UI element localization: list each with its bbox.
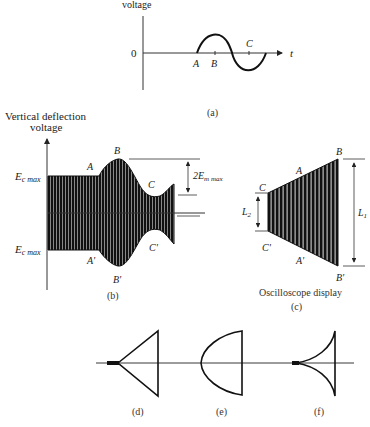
caption-e: (e) xyxy=(216,406,227,418)
l1-label: L1 xyxy=(357,207,367,220)
point-b-prime-display: B' xyxy=(336,272,345,283)
point-a-upper: A xyxy=(86,161,94,172)
point-c-lower: C' xyxy=(149,242,159,253)
panel-a-y-label: voltage xyxy=(122,0,152,10)
ec-max-bottom-label: Ec max xyxy=(14,243,41,257)
sine-wave xyxy=(197,35,266,71)
point-c-prime-display: C' xyxy=(262,242,272,253)
triangle-pattern xyxy=(118,331,158,396)
point-a: A xyxy=(192,58,200,69)
point-c-upper: C xyxy=(148,179,155,190)
zero-label: 0 xyxy=(131,47,137,59)
caption-b: (b) xyxy=(107,290,119,302)
ec-max-top-label: Ec max xyxy=(14,170,41,184)
caption-f: (f) xyxy=(314,406,324,418)
caption-a: (a) xyxy=(207,107,218,119)
panel-d: (d) xyxy=(107,331,158,418)
caption-d: (d) xyxy=(132,406,144,418)
point-a-prime-display: A' xyxy=(295,255,305,266)
panel-c: L2 L1 C A B C' A' B' Oscilloscope displa… xyxy=(241,146,367,313)
point-b-lower: B' xyxy=(113,274,122,285)
concave-pattern xyxy=(296,331,335,396)
panel-f: (f) xyxy=(292,331,335,418)
modulation-diagram: voltage 0 t A B C (a) Vertical deflectio… xyxy=(0,0,370,427)
panel-b-y-label-2: voltage xyxy=(30,121,62,133)
caption-c: (c) xyxy=(291,301,302,313)
point-a-display: A xyxy=(295,165,303,176)
oscilloscope-display-title: Oscilloscope display xyxy=(259,287,342,298)
point-c-display: C xyxy=(259,182,266,193)
trapezoid-display xyxy=(268,159,338,266)
panels-def: (d) (e) (f) xyxy=(96,331,354,418)
panel-e: (e) xyxy=(201,331,242,418)
l2-label: L2 xyxy=(241,206,252,219)
point-b: B xyxy=(211,58,217,69)
panel-b: Vertical deflection voltage Ec max Ec ma… xyxy=(5,110,223,302)
point-c: C xyxy=(246,38,253,49)
t-label: t xyxy=(290,47,294,59)
point-a-lower: A' xyxy=(86,255,96,266)
point-b-upper: B xyxy=(114,145,120,156)
em-label: 2Em max xyxy=(193,170,223,183)
panel-a: voltage 0 t A B C (a) xyxy=(122,0,294,119)
point-b-display: B xyxy=(336,146,342,157)
